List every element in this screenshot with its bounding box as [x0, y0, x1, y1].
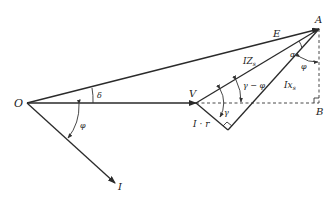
right-angle-foot	[223, 122, 232, 126]
label-gamma: γ	[224, 108, 229, 117]
label-b: B	[315, 106, 323, 117]
label-phi-right: φ	[301, 62, 307, 71]
alpha-arc	[299, 41, 302, 48]
label-izs: IZs	[242, 56, 256, 67]
gamma-minus-phi-arc	[236, 80, 241, 102]
right-angle-b	[314, 98, 319, 103]
label-e: E	[272, 28, 281, 39]
phasor-diagram: O V A B E I IZs Ixs I · r δ φ γ γ − φ α …	[0, 0, 335, 205]
label-alpha: α	[290, 50, 296, 59]
i-vector	[27, 103, 115, 183]
label-v: V	[189, 88, 198, 99]
label-a: A	[314, 14, 322, 25]
label-ixs: Ixs	[283, 80, 296, 91]
label-phi-left: φ	[80, 121, 86, 130]
phi-arc-left	[68, 104, 79, 138]
label-ir: I · r	[192, 119, 210, 129]
label-o: O	[14, 97, 23, 110]
label-delta: δ	[97, 91, 102, 100]
delta-arc	[92, 88, 93, 103]
label-gamma-minus-phi: γ − φ	[243, 81, 266, 90]
e-vector	[27, 29, 319, 103]
label-i: I	[117, 181, 123, 192]
ixs-vector	[228, 29, 319, 130]
